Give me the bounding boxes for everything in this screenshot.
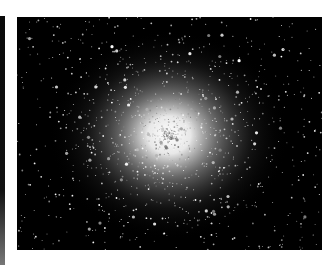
star-cluster-photo — [17, 17, 322, 250]
star-field — [17, 17, 322, 250]
left-edge-strip — [0, 16, 5, 265]
